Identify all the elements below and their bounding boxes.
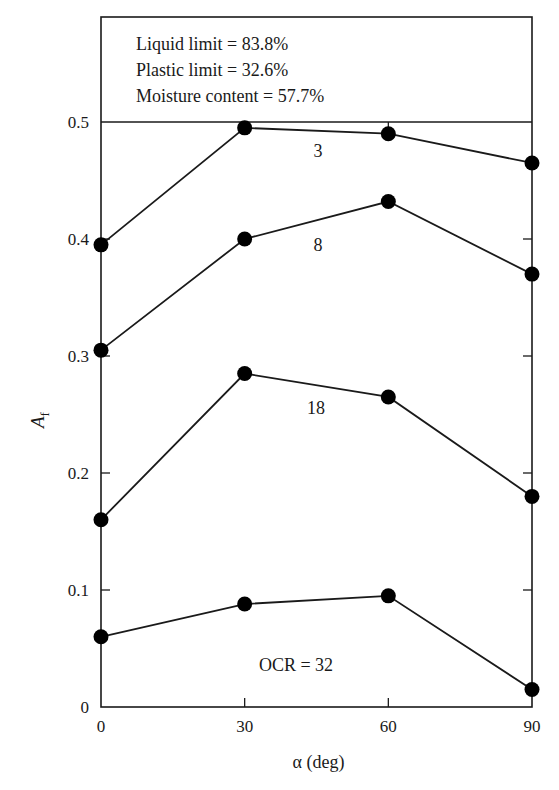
y-tick-label: 0.4 — [68, 230, 90, 249]
y-tick-label: 0.5 — [68, 113, 89, 132]
text-labels: 00.10.20.30.40.50306090α (deg)AfLiquid l… — [27, 34, 541, 773]
y-tick-label: 0.1 — [68, 581, 89, 600]
series-label: 8 — [314, 235, 323, 255]
series-line-ocr-32 — [101, 596, 532, 690]
y-tick-label: 0.3 — [68, 347, 89, 366]
data-point — [525, 489, 540, 504]
series-label: OCR = 32 — [259, 655, 333, 675]
series-label: 18 — [307, 398, 325, 418]
x-tick-label: 30 — [236, 717, 253, 736]
data-point — [94, 512, 109, 527]
data-point — [381, 588, 396, 603]
axes-box — [101, 17, 532, 707]
data-point — [237, 232, 252, 247]
data-point — [237, 597, 252, 612]
data-point — [237, 120, 252, 135]
y-tick-label: 0.2 — [68, 464, 89, 483]
x-axis-label: α (deg) — [293, 752, 345, 773]
y-axis-label: Af — [27, 411, 52, 430]
series-line-ocr-8 — [101, 202, 532, 351]
series-label: 3 — [314, 141, 323, 161]
data-point — [525, 155, 540, 170]
data-point — [94, 629, 109, 644]
annotation-line: Moisture content = 57.7% — [136, 86, 324, 106]
x-tick-label: 90 — [524, 717, 541, 736]
data-point — [94, 237, 109, 252]
data-point — [94, 343, 109, 358]
x-tick-label: 0 — [97, 717, 106, 736]
annotation-line: Plastic limit = 32.6% — [136, 60, 288, 80]
x-tick-label: 60 — [380, 717, 397, 736]
chart: 00.10.20.30.40.50306090α (deg)AfLiquid l… — [0, 0, 559, 790]
data-point — [237, 366, 252, 381]
series-line-ocr-18 — [101, 374, 532, 520]
data-point — [381, 389, 396, 404]
y-tick-label: 0 — [81, 698, 90, 717]
plot-frame — [101, 17, 532, 707]
annotation-line: Liquid limit = 83.8% — [136, 34, 288, 54]
data-point — [525, 267, 540, 282]
data-point — [525, 682, 540, 697]
data-point — [381, 194, 396, 209]
data-point — [381, 126, 396, 141]
